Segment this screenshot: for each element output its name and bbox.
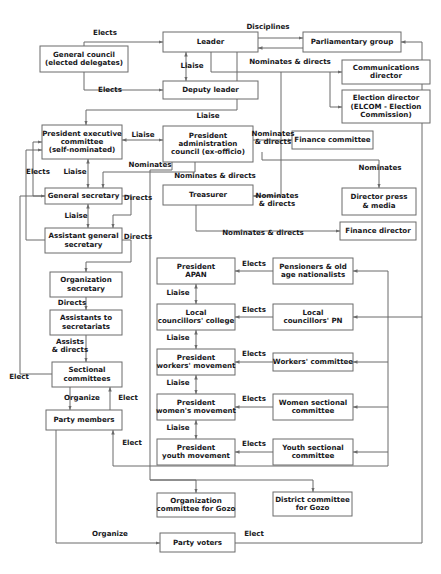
node-label: Sectionalcommittees (64, 365, 111, 382)
edge-label-organize-members: Organize (64, 393, 100, 402)
edge-label-nominates-directs-treas2: Nominates& directs (256, 191, 299, 208)
node-local_councillors_pn[interactable]: Localcouncillors' PN (273, 304, 353, 330)
edge-label-elects-council-leader: Elects (93, 28, 117, 37)
edge-leader-election-director (330, 72, 342, 107)
edge-label-elect-sectional2: Elect (118, 393, 138, 402)
edge-label-elects-council-deputy: Elects (98, 85, 122, 94)
edge-label-nominates-directs-findir: Nominates & directs (222, 228, 304, 237)
node-director_press[interactable]: Director press& media (342, 188, 416, 215)
edge-label-disciplines: Disciplines (246, 22, 289, 31)
node-pres_womens_movement[interactable]: Presidentwomen's movement (156, 394, 236, 420)
edge-members-voters-organize (56, 430, 160, 543)
node-label: Deputy leader (182, 85, 239, 94)
node-pres_admin_council[interactable]: Presidentadministrationcouncil (ex-offic… (163, 126, 253, 162)
edge-label-liaise-deputy-admin: Liaise (196, 111, 219, 120)
node-assistants_secretariats[interactable]: Assistants tosecretariats (50, 310, 122, 335)
edge-label-liaise-apan-college: Liaise (166, 288, 189, 297)
edge-label-directs-orgsec: Directs (58, 298, 86, 307)
diagram-canvas: General council(elected delegates)Leader… (0, 0, 441, 574)
node-party_voters[interactable]: Party voters (160, 533, 235, 552)
edge-label-nominates-press: Nominates (359, 163, 402, 172)
node-label: Assistants tosecretariats (60, 313, 112, 330)
edge-rail-pensioners (353, 271, 388, 466)
node-label: Pensioners & oldage nationalists (279, 262, 347, 279)
edge-label-organize-voters: Organize (92, 529, 128, 538)
node-communications_dir[interactable]: Communicationsdirector (342, 60, 430, 84)
edge-label-elects-pensioners: Elects (242, 259, 266, 268)
edge-label-elects-workers: Elects (242, 349, 266, 358)
edge-label-nominates-directs-treasurer: Nominates & directs (174, 171, 256, 180)
node-label: Party voters (173, 537, 222, 546)
node-label: Organizationsecretary (60, 275, 112, 292)
node-label: Election director(ELCOM - ElectionCommis… (351, 93, 422, 119)
edge-label-liaise-exec-gensec: Liaise (63, 167, 86, 176)
node-label: Workers' committee (273, 357, 354, 366)
node-assistant_gen_sec[interactable]: Assistant generalsecretary (45, 228, 122, 253)
node-general_council[interactable]: General council(elected delegates) (40, 46, 128, 72)
node-label: General secretary (48, 191, 120, 200)
node-organization_secretary[interactable]: Organizationsecretary (50, 272, 122, 297)
edge-label-liaise-exec-admin: Liaise (131, 130, 154, 139)
edge-label-elect-voters: Elect (244, 529, 264, 538)
node-label: Treasurer (189, 190, 228, 199)
edge-label-nominates-directs-finance: Nominates& directs (252, 129, 295, 146)
node-label: Finance director (345, 226, 411, 235)
node-label: Party members (54, 415, 115, 424)
node-parliamentary_group[interactable]: Parliamentary group (303, 32, 401, 52)
edge-label-nominates-admin: Nominates (129, 160, 172, 169)
edge-sectional-gensec-elect (20, 196, 52, 374)
node-sectional_committees[interactable]: Sectionalcommittees (52, 362, 122, 387)
node-election_director[interactable]: Election director(ELCOM - ElectionCommis… (342, 90, 430, 123)
org-chart-diagram: General council(elected delegates)Leader… (0, 0, 441, 574)
edge-label-assists-directs: Assists& directs (52, 337, 88, 354)
edge-label-directs-gensec-1: Directs (124, 193, 152, 202)
node-finance_director[interactable]: Finance director (340, 222, 416, 240)
node-label: Finance committee (294, 135, 371, 144)
edge-feed-gozo-district (150, 480, 313, 492)
node-women_sectional[interactable]: Women sectionalcommittee (273, 394, 353, 420)
node-finance_committee[interactable]: Finance committee (292, 131, 373, 149)
edge-asst-exec-elects (26, 150, 45, 240)
edge-label-elects-exec: Elects (26, 167, 50, 176)
node-workers_committee[interactable]: Workers' committee (273, 353, 354, 371)
node-org_committee_gozo[interactable]: Organizationcommittee for Gozo (157, 493, 236, 517)
node-party_members[interactable]: Party members (46, 410, 122, 430)
node-pensioners[interactable]: Pensioners & oldage nationalists (273, 258, 353, 284)
node-pres_exec_committee[interactable]: President executivecommittee(self-nomina… (42, 125, 122, 159)
node-label: Parliamentary group (311, 37, 394, 46)
edge-label-elect-members: Elect (122, 438, 142, 447)
edge-label-liaise-workers-women: Liaise (166, 378, 189, 387)
node-district_committee_gozo[interactable]: District committeefor Gozo (273, 492, 352, 516)
edge-label-elects-localpn: Elects (242, 305, 266, 314)
edge-label-directs-asst: Directs (124, 232, 152, 241)
edge-council-leader (84, 42, 163, 46)
edge-label-liaise-women-youth: Liaise (166, 423, 189, 432)
node-local_council_college[interactable]: Localcouncillors' college (157, 304, 235, 330)
node-label: Leader (197, 37, 225, 46)
node-leader[interactable]: Leader (163, 32, 258, 52)
edge-council-deputy (84, 72, 163, 90)
edge-label-elect-sectional: Elect (9, 372, 29, 381)
edge-label-elects-youth: Elects (242, 439, 266, 448)
node-deputy_leader[interactable]: Deputy leader (163, 81, 258, 99)
node-president_apan[interactable]: PresidentAPAN (157, 258, 235, 284)
edge-label-liaise-leader-deputy: Liaise (180, 61, 203, 70)
node-youth_sectional[interactable]: Youth sectionalcommittee (273, 439, 353, 465)
edge-label-liaise-college-workers: Liaise (166, 333, 189, 342)
node-general_secretary[interactable]: General secretary (45, 188, 122, 204)
edge-label-elects-women: Elects (242, 394, 266, 403)
node-pres_youth_movement[interactable]: Presidentyouth movement (157, 439, 235, 465)
node-pres_workers_movement[interactable]: Presidentworkers' movement (157, 349, 237, 375)
node-label: General council(elected delegates) (45, 50, 123, 67)
node-treasurer[interactable]: Treasurer (163, 185, 253, 205)
edge-label-liaise-gensec-asst: Liaise (64, 211, 87, 220)
edge-label-nominates-directs-leader: Nominates & directs (249, 57, 331, 66)
